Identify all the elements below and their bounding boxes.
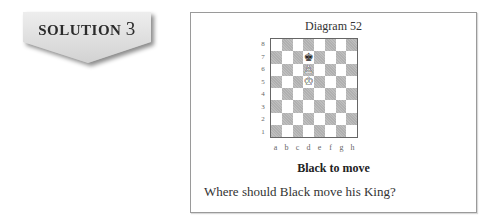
side-to-move-caption: Black to move bbox=[191, 161, 476, 176]
rank-label: 1 bbox=[258, 126, 268, 139]
square-f3 bbox=[325, 100, 336, 112]
square-d4 bbox=[303, 88, 314, 100]
square-h6 bbox=[346, 64, 357, 76]
square-c3 bbox=[293, 100, 304, 112]
white-pawn-icon: ♙ bbox=[304, 64, 314, 75]
square-d5: ♔ bbox=[303, 76, 314, 88]
square-h2 bbox=[346, 113, 357, 125]
square-b8 bbox=[282, 39, 293, 51]
banner-title: SOLUTION 3 bbox=[23, 18, 151, 40]
chess-board: ♚♙♔ bbox=[270, 38, 358, 138]
rank-labels: 87654321 bbox=[258, 38, 268, 138]
square-g4 bbox=[336, 88, 347, 100]
square-h5 bbox=[346, 76, 357, 88]
diagram-frame: Diagram 52 87654321 ♚♙♔ abcdefgh Black t… bbox=[190, 12, 477, 213]
square-b7 bbox=[282, 51, 293, 63]
black-king-icon: ♚ bbox=[304, 52, 314, 63]
rank-label: 6 bbox=[258, 63, 268, 76]
square-a5 bbox=[271, 76, 282, 88]
file-label: g bbox=[336, 143, 347, 152]
file-label: h bbox=[347, 143, 358, 152]
square-h7 bbox=[346, 51, 357, 63]
square-c6 bbox=[293, 64, 304, 76]
rank-label: 7 bbox=[258, 51, 268, 64]
square-f2 bbox=[325, 113, 336, 125]
square-a3 bbox=[271, 100, 282, 112]
square-c5 bbox=[293, 76, 304, 88]
square-g3 bbox=[336, 100, 347, 112]
square-g6 bbox=[336, 64, 347, 76]
square-f5 bbox=[325, 76, 336, 88]
file-label: b bbox=[281, 143, 292, 152]
square-g2 bbox=[336, 113, 347, 125]
square-b3 bbox=[282, 100, 293, 112]
square-d8 bbox=[303, 39, 314, 51]
diagram-title: Diagram 52 bbox=[191, 19, 476, 34]
square-a7 bbox=[271, 51, 282, 63]
question-text: Where should Black move his King? bbox=[204, 184, 396, 200]
square-b1 bbox=[282, 125, 293, 137]
square-h4 bbox=[346, 88, 357, 100]
rank-label: 3 bbox=[258, 101, 268, 114]
square-e8 bbox=[314, 39, 325, 51]
square-a6 bbox=[271, 64, 282, 76]
square-d3 bbox=[303, 100, 314, 112]
square-e6 bbox=[314, 64, 325, 76]
square-g8 bbox=[336, 39, 347, 51]
square-d7: ♚ bbox=[303, 51, 314, 63]
square-g1 bbox=[336, 125, 347, 137]
square-d2 bbox=[303, 113, 314, 125]
banner-label-text: SOLUTION bbox=[38, 22, 121, 38]
square-d6: ♙ bbox=[303, 64, 314, 76]
square-b6 bbox=[282, 64, 293, 76]
square-e1 bbox=[314, 125, 325, 137]
file-label: f bbox=[325, 143, 336, 152]
rank-label: 5 bbox=[258, 76, 268, 89]
file-label: c bbox=[292, 143, 303, 152]
rank-label: 8 bbox=[258, 38, 268, 51]
square-a1 bbox=[271, 125, 282, 137]
square-e4 bbox=[314, 88, 325, 100]
square-b5 bbox=[282, 76, 293, 88]
file-label: a bbox=[270, 143, 281, 152]
square-e5 bbox=[314, 76, 325, 88]
solution-banner: SOLUTION 3 bbox=[23, 12, 151, 64]
square-h1 bbox=[346, 125, 357, 137]
square-c2 bbox=[293, 113, 304, 125]
square-g5 bbox=[336, 76, 347, 88]
square-d1 bbox=[303, 125, 314, 137]
square-b2 bbox=[282, 113, 293, 125]
square-f6 bbox=[325, 64, 336, 76]
square-e2 bbox=[314, 113, 325, 125]
square-a4 bbox=[271, 88, 282, 100]
white-king-icon: ♔ bbox=[304, 76, 314, 87]
square-c8 bbox=[293, 39, 304, 51]
square-a2 bbox=[271, 113, 282, 125]
square-b4 bbox=[282, 88, 293, 100]
square-f8 bbox=[325, 39, 336, 51]
square-f7 bbox=[325, 51, 336, 63]
square-c4 bbox=[293, 88, 304, 100]
square-h3 bbox=[346, 100, 357, 112]
square-g7 bbox=[336, 51, 347, 63]
square-a8 bbox=[271, 39, 282, 51]
rank-label: 4 bbox=[258, 88, 268, 101]
file-label: d bbox=[303, 143, 314, 152]
rank-label: 2 bbox=[258, 113, 268, 126]
square-c7 bbox=[293, 51, 304, 63]
square-h8 bbox=[346, 39, 357, 51]
file-label: e bbox=[314, 143, 325, 152]
banner-number: 3 bbox=[126, 18, 136, 39]
square-c1 bbox=[293, 125, 304, 137]
square-e7 bbox=[314, 51, 325, 63]
square-f1 bbox=[325, 125, 336, 137]
file-labels: abcdefgh bbox=[270, 143, 358, 152]
square-f4 bbox=[325, 88, 336, 100]
square-e3 bbox=[314, 100, 325, 112]
